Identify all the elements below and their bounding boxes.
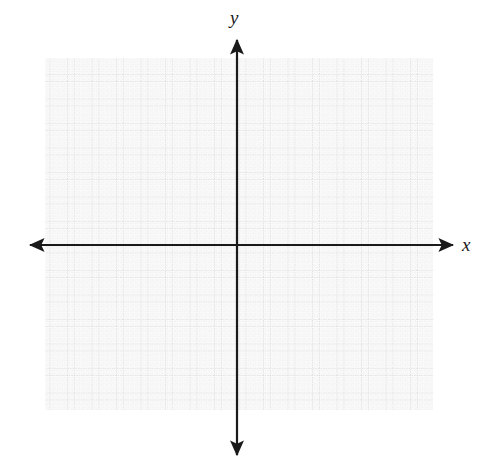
graph-canvas — [0, 0, 489, 465]
coordinate-plane-figure: y x — [0, 0, 489, 465]
grid-aligned-overlay — [43, 57, 437, 415]
y-axis-label: y — [230, 8, 238, 27]
x-axis-label: x — [462, 235, 470, 254]
